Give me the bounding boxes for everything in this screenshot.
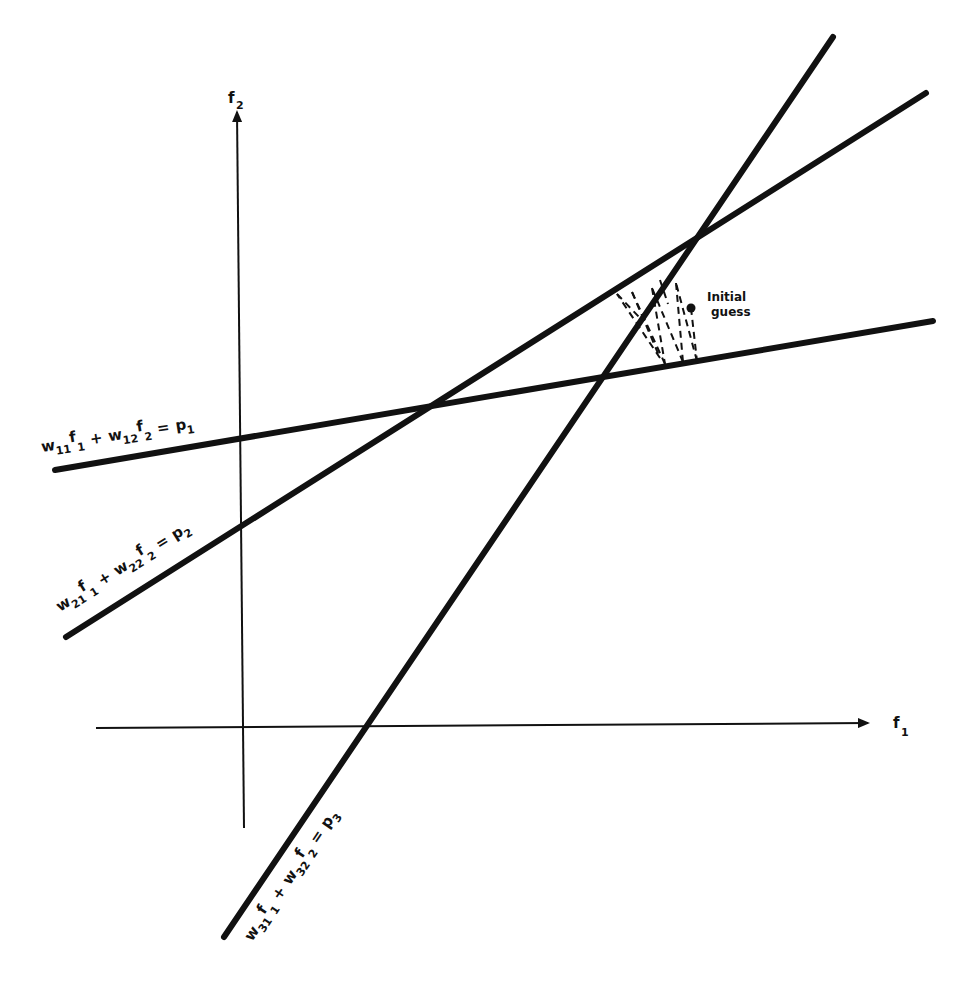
svg-text:f: f	[228, 89, 235, 107]
f1-axis	[96, 723, 868, 728]
projection-diagram: Initial guess f 2 f 1 w11f1+w12f2=p1 w21…	[0, 0, 973, 989]
svg-text:w31f1+w32f2=p3: w31f1+w32f2=p3	[236, 803, 345, 946]
svg-text:1: 1	[901, 726, 909, 739]
svg-text:2: 2	[236, 99, 244, 112]
f2-axis-label: f 2	[228, 89, 244, 112]
line-3-equation: w31f1+w32f2=p3	[236, 803, 345, 946]
initial-guess-point	[687, 304, 696, 313]
f1-axis-label: f 1	[893, 714, 909, 739]
initial-guess-label-2: guess	[711, 305, 751, 319]
constraint-line-2	[66, 93, 926, 637]
f2-axis	[237, 112, 244, 828]
initial-guess-label: Initial	[707, 290, 746, 304]
constraint-line-3	[224, 37, 833, 937]
svg-text:f: f	[893, 714, 900, 732]
constraint-line-1	[55, 321, 933, 470]
